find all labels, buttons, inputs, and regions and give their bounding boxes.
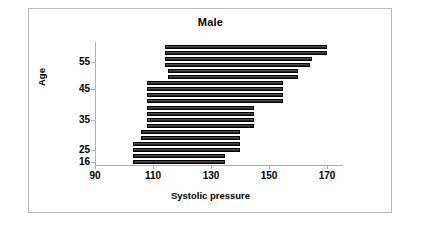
bar — [147, 106, 254, 110]
bar — [133, 142, 240, 146]
bar — [133, 154, 226, 158]
y-tick-label: 25 — [62, 145, 90, 155]
x-tick — [211, 166, 212, 169]
x-axis-title: Systolic pressure — [0, 190, 421, 201]
bar — [133, 160, 226, 164]
bar — [141, 130, 240, 134]
bar — [165, 57, 313, 61]
y-tick — [91, 150, 95, 151]
x-tick — [95, 166, 96, 169]
bar — [168, 75, 299, 79]
y-tick-label: 45 — [62, 84, 90, 94]
bar — [147, 124, 254, 128]
y-axis-title: Age — [36, 68, 47, 86]
bar — [168, 69, 299, 73]
x-tick-label: 170 — [307, 170, 347, 181]
x-tick — [327, 166, 328, 169]
bar — [147, 99, 283, 103]
y-tick-label: 35 — [62, 115, 90, 125]
bar — [147, 81, 283, 85]
bar — [147, 87, 283, 91]
y-tick-label: 55 — [62, 57, 90, 67]
y-tick-label: 16 — [62, 157, 90, 167]
bar — [165, 45, 327, 49]
bar — [133, 148, 240, 152]
y-axis-line — [95, 42, 96, 166]
bar — [165, 63, 310, 67]
x-tick-label: 130 — [191, 170, 231, 181]
x-tick-label: 150 — [249, 170, 289, 181]
x-tick — [153, 166, 154, 169]
x-tick-label: 110 — [133, 170, 173, 181]
y-tick — [91, 89, 95, 90]
bar — [147, 112, 254, 116]
bar — [141, 136, 240, 140]
y-tick — [91, 120, 95, 121]
x-axis-line — [95, 165, 343, 166]
bar — [147, 93, 283, 97]
y-tick — [91, 162, 95, 163]
bar — [147, 118, 254, 122]
x-tick — [269, 166, 270, 169]
bar — [165, 51, 327, 55]
chart-figure: Male 90110130150170 1625354555 Systolic … — [0, 0, 421, 225]
y-tick — [91, 62, 95, 63]
